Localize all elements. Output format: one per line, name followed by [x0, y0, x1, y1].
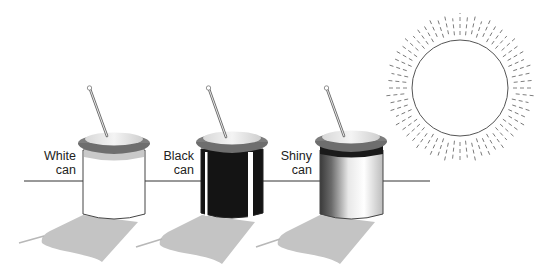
black-can-label-line2: can	[148, 163, 194, 177]
white-can-shadow	[42, 215, 138, 262]
black-can-label: Black can	[148, 149, 194, 177]
black-can-highlight-right	[248, 152, 253, 220]
solar-heating-diagram	[0, 0, 543, 275]
shiny-can-body	[320, 150, 383, 219]
shiny-can-lid-top	[322, 131, 380, 144]
sun-icon	[384, 13, 535, 163]
black-can-shadow	[160, 215, 255, 264]
black-can-shadow-stick	[136, 239, 162, 247]
white-can-label: White can	[30, 149, 76, 177]
black-can-highlight-left	[205, 152, 208, 216]
shiny-can-shadow-stick	[256, 239, 280, 247]
white-can-lid-top	[85, 133, 143, 146]
shiny-can-label-line1: Shiny	[266, 149, 312, 163]
white-can-label-line2: can	[30, 163, 76, 177]
shiny-can-label-line2: can	[266, 163, 312, 177]
black-can-lid-top	[203, 132, 261, 145]
shiny-can-label: Shiny can	[266, 149, 312, 177]
white-can-shadow-stick	[19, 236, 44, 243]
black-can-body	[201, 149, 263, 218]
shiny-can-shadow	[278, 215, 375, 264]
sun-disc	[412, 40, 508, 136]
black-can-label-line1: Black	[148, 149, 194, 163]
white-can-label-line1: White	[30, 149, 76, 163]
